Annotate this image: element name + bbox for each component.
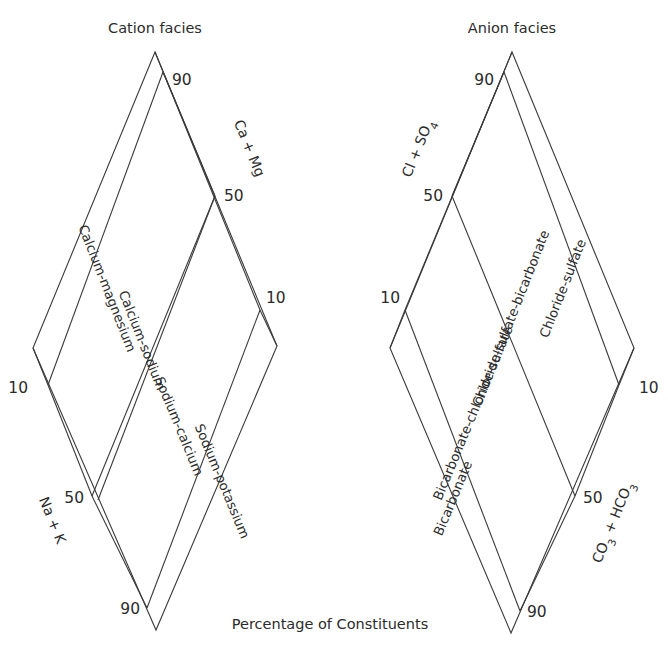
figure-caption: Percentage of Constituents (232, 616, 428, 632)
cation-tick-lower-left-50: 50 (64, 489, 84, 507)
cation-tick-left-10: 10 (8, 379, 28, 397)
anion-axis-cl-so4: Cl + SO4 (399, 117, 441, 182)
cation-tick-right-10: 10 (266, 289, 286, 307)
cation-divider-na-k (147, 310, 260, 608)
anion-edge-apex-to-left10 (405, 52, 512, 310)
cation-axis-ca-mg: Ca + Mg (231, 117, 268, 179)
anion-jog-left-10 (390, 310, 405, 348)
piper-facies-diagram: Cation facies 90 50 10 10 50 90 Ca + Mg … (0, 0, 668, 650)
anion-tick-top-90: 90 (474, 71, 494, 89)
anion-tick-upper-left-50: 50 (423, 187, 443, 205)
anion-title: Anion facies (468, 20, 556, 36)
figure-canvas: Cation facies 90 50 10 10 50 90 Ca + Mg … (0, 0, 668, 650)
anion-panel: Anion facies 90 50 10 10 50 90 Cl + SO4 … (380, 20, 658, 633)
anion-tick-left-10: 10 (380, 289, 400, 307)
anion-tick-right-10: 10 (639, 379, 659, 397)
cation-band-sodium-potassium: Sodium-potassium (192, 422, 253, 541)
anion-tick-bottom-90: 90 (527, 603, 547, 621)
cation-jog-right-10 (260, 310, 277, 346)
anion-tick-lower-right-50: 50 (583, 489, 603, 507)
anion-edge-50-to-bottom (520, 496, 575, 611)
cation-tick-upper-right-50: 50 (224, 187, 244, 205)
cation-title: Cation facies (108, 20, 202, 36)
anion-divider-cl-bicarb (452, 196, 575, 496)
cation-jog-left-10 (33, 348, 48, 385)
cation-edge-bottom-left (48, 385, 92, 496)
cation-tick-top-90: 90 (172, 71, 192, 89)
cation-panel: Cation facies 90 50 10 10 50 90 Ca + Mg … (8, 20, 285, 630)
anion-divider-cl-so4 (504, 72, 619, 385)
anion-band-bicarbonate-chloride-sulfate: Bicarbonate-chloride-sulfate (430, 324, 515, 502)
anion-jog-right-10 (619, 348, 634, 385)
cation-edge-apex-to-right10 (155, 52, 260, 310)
cation-tick-bottom-90: 90 (120, 600, 140, 618)
anion-edge-bottom-right (575, 385, 619, 496)
cation-edge-50-to-bottom (92, 496, 147, 608)
